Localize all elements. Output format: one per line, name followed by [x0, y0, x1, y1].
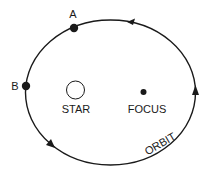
- orbit-label: ORBIT: [142, 130, 177, 157]
- point-a-marker: [70, 24, 78, 32]
- star-label: STAR: [62, 103, 91, 115]
- star-circle: [67, 81, 85, 99]
- arrow-top-icon: [127, 19, 135, 26]
- arrow-right-icon: [192, 85, 199, 95]
- point-b-marker: [22, 82, 30, 90]
- focus-dot: [141, 89, 147, 95]
- point-a-label: A: [69, 8, 77, 20]
- orbit-diagram: A B STAR FOCUS ORBIT: [0, 0, 212, 174]
- point-b-label: B: [11, 80, 18, 92]
- focus-label: FOCUS: [128, 103, 167, 115]
